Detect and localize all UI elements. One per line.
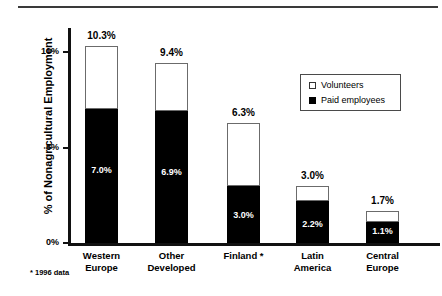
black-square-icon — [309, 97, 316, 104]
bar-total-label: 10.3% — [85, 30, 118, 41]
bar-western-europe — [85, 46, 118, 243]
x-axis-line — [68, 243, 440, 246]
y-tick-label-0: 0% — [25, 237, 59, 247]
bar-paid-label: 6.9% — [155, 167, 188, 177]
y-tick-mark-10 — [63, 51, 69, 53]
category-label-line: Europe — [328, 262, 438, 274]
chart-legend: Volunteers Paid employees — [300, 74, 401, 111]
category-label-line: Developed — [117, 262, 227, 274]
white-square-icon — [309, 82, 316, 89]
bar-segment-volunteers — [366, 211, 399, 222]
y-axis-line — [68, 28, 71, 244]
bar-paid-label: 7.0% — [85, 165, 118, 175]
x-category-label: CentralEurope — [328, 250, 438, 274]
legend-item-volunteers: Volunteers — [309, 80, 364, 90]
bar-segment-volunteers — [155, 63, 188, 111]
bar-paid-label: 1.1% — [366, 226, 399, 236]
bar-total-label: 6.3% — [227, 107, 260, 118]
bar-other-developed — [155, 63, 188, 243]
bar-segment-volunteers — [85, 46, 118, 109]
bar-total-label: 9.4% — [155, 47, 188, 58]
legend-label-volunteers: Volunteers — [321, 80, 364, 90]
bar-segment-paid-employees — [155, 111, 188, 243]
footnote: * 1996 data — [30, 268, 69, 277]
y-tick-mark-5 — [63, 147, 69, 149]
bar-paid-label: 3.0% — [227, 210, 260, 220]
y-tick-label-10: 10% — [25, 46, 59, 56]
bar-paid-label: 2.2% — [296, 219, 329, 229]
y-axis-title: % of Nonagricultural Employment — [42, 10, 54, 242]
bar-total-label: 3.0% — [296, 170, 329, 181]
y-tick-label-5: 5% — [25, 142, 59, 152]
category-label-line: Central — [328, 250, 438, 262]
bar-total-label: 1.7% — [366, 195, 399, 206]
bar-segment-paid-employees — [85, 109, 118, 243]
stacked-bar-chart: % of Nonagricultural Employment 10%5%0% … — [0, 0, 442, 296]
legend-label-paid-employees: Paid employees — [321, 95, 385, 105]
bar-latin-america — [296, 186, 329, 243]
y-tick-mark-0 — [63, 242, 69, 244]
bar-finland — [227, 123, 260, 243]
bar-segment-volunteers — [296, 186, 329, 201]
legend-item-paid-employees: Paid employees — [309, 95, 385, 105]
bar-segment-volunteers — [227, 123, 260, 186]
